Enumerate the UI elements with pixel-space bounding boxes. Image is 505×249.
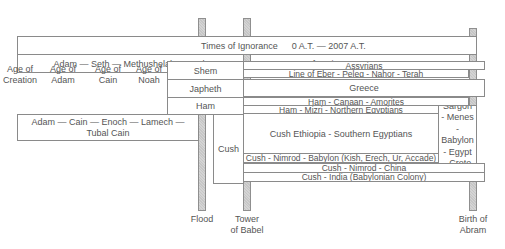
cush-nimrod-babylon-row: Cush - Nimrod - Babylon (Kish, Erech, Ur… <box>243 153 439 163</box>
greece-row: Greece <box>243 79 485 97</box>
japheth-box: Japheth <box>167 79 244 98</box>
ham-box: Ham <box>167 97 244 115</box>
times-of-ignorance-label: Times of Ignorance <box>201 41 278 51</box>
sargon-box: Sargon - Menes - Babylon - Egypt - Crete <box>438 105 477 165</box>
tower-of-babel-label: Towerof Babel <box>226 214 268 236</box>
birth-of-abram-label: Birth ofAbram <box>452 214 494 236</box>
cush-india-row: Cush - India (Babylonian Colony) <box>243 172 485 182</box>
lineage-cain-box: Adam — Cain — Enoch — Lamech — Tubal Cai… <box>17 114 199 141</box>
anno-tempore-range: 0 A.T. — 2007 A.T. <box>292 41 366 51</box>
age-of-creation-label: Age ofCreation <box>0 64 40 86</box>
shem-box: Shem <box>167 61 244 80</box>
age-of-adam-label: Age ofAdam <box>47 64 79 86</box>
age-of-cain-label: Age ofCain <box>92 64 124 86</box>
cush-box: Cush <box>213 114 244 184</box>
cush-ethiopia-box: Cush Ethiopia - Southern Egyptians <box>243 113 439 154</box>
line-of-eber-row: Line of Eber - Peleg - Nahor - Terah <box>243 69 469 78</box>
age-of-noah-label: Age ofNoah <box>133 64 165 86</box>
flood-label: Flood <box>182 214 222 225</box>
times-of-ignorance-row: Times of Ignorance 0 A.T. — 2007 A.T. <box>17 36 477 55</box>
